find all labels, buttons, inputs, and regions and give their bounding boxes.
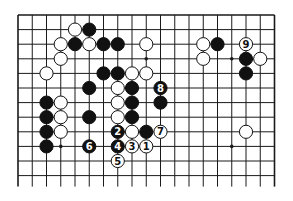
black-stone — [40, 125, 53, 138]
black-stone-icon — [239, 52, 252, 65]
white-stone-icon — [54, 38, 67, 51]
black-stone — [40, 140, 53, 153]
white-stone — [54, 38, 67, 51]
star-point-icon — [230, 57, 234, 61]
black-stone — [68, 38, 81, 51]
white-stone — [239, 125, 252, 138]
white-stone-icon — [197, 52, 210, 65]
white-stone-icon — [54, 96, 67, 109]
star-point-icon — [230, 145, 234, 149]
black-stone-icon — [40, 125, 53, 138]
black-stone — [125, 96, 138, 109]
black-stone — [83, 23, 96, 36]
black-stone-icon — [68, 38, 81, 51]
black-stone — [140, 125, 153, 138]
white-stone-icon — [83, 38, 96, 51]
black-stone-icon — [125, 111, 138, 124]
move-number-label: 9 — [243, 39, 250, 50]
black-stone-icon — [97, 38, 110, 51]
move-number-label: 3 — [129, 141, 136, 152]
white-stone — [54, 96, 67, 109]
white-stone-icon — [40, 67, 53, 80]
white-stone — [254, 52, 267, 65]
move-number-label: 6 — [86, 141, 93, 152]
star-point-icon — [144, 57, 148, 61]
black-stone-icon — [83, 111, 96, 124]
black-stone-move-4: 4 — [111, 140, 124, 153]
white-stone-icon — [125, 67, 138, 80]
move-number-label: 7 — [157, 126, 164, 137]
white-stone — [111, 81, 124, 94]
white-stone — [83, 38, 96, 51]
white-stone — [54, 52, 67, 65]
white-stone-move-1: 1 — [140, 140, 153, 153]
black-stone — [239, 67, 252, 80]
white-stone — [140, 38, 153, 51]
black-stone-move-6: 6 — [83, 140, 96, 153]
black-stone — [40, 96, 53, 109]
white-stone — [111, 111, 124, 124]
move-number-label: 1 — [143, 141, 150, 152]
white-stone — [40, 67, 53, 80]
black-stone-icon — [125, 81, 138, 94]
black-stone-icon — [40, 111, 53, 124]
white-stone-icon — [197, 38, 210, 51]
white-stone-icon — [111, 96, 124, 109]
move-number-label: 8 — [157, 83, 164, 94]
white-stone-move-9: 9 — [239, 38, 252, 51]
white-stone — [197, 52, 210, 65]
move-number-label: 4 — [114, 141, 121, 152]
black-stone — [154, 96, 167, 109]
white-stone-icon — [54, 125, 67, 138]
white-stone — [68, 23, 81, 36]
go-board-diagram: 982764315 — [0, 0, 293, 201]
white-stone — [111, 96, 124, 109]
white-stone — [54, 125, 67, 138]
black-stone-icon — [111, 67, 124, 80]
white-stone — [197, 38, 210, 51]
white-stone-move-3: 3 — [125, 140, 138, 153]
white-stone-icon — [54, 111, 67, 124]
black-stone — [211, 38, 224, 51]
black-stone-icon — [40, 140, 53, 153]
white-stone — [125, 125, 138, 138]
black-stone-icon — [239, 67, 252, 80]
black-stone-icon — [83, 81, 96, 94]
black-stone — [125, 81, 138, 94]
white-stone-move-5: 5 — [111, 154, 124, 167]
white-stone-icon — [68, 23, 81, 36]
white-stone-icon — [125, 125, 138, 138]
white-stone — [140, 67, 153, 80]
white-stone-icon — [140, 38, 153, 51]
black-stone-icon — [111, 38, 124, 51]
white-stone-move-7: 7 — [154, 125, 167, 138]
black-stone-icon — [211, 38, 224, 51]
black-stone — [83, 81, 96, 94]
white-stone-icon — [239, 125, 252, 138]
black-stone-move-2: 2 — [111, 125, 124, 138]
black-stone — [239, 52, 252, 65]
black-stone-icon — [83, 23, 96, 36]
move-number-label: 2 — [114, 126, 121, 137]
black-stone — [111, 67, 124, 80]
white-stone-icon — [111, 81, 124, 94]
black-stone — [111, 38, 124, 51]
black-stone — [97, 67, 110, 80]
white-stone-icon — [140, 67, 153, 80]
star-point-icon — [59, 145, 63, 149]
white-stone-icon — [54, 52, 67, 65]
black-stone — [97, 38, 110, 51]
white-stone — [54, 111, 67, 124]
black-stone — [40, 111, 53, 124]
black-stone — [83, 111, 96, 124]
white-stone-icon — [254, 52, 267, 65]
black-stone-icon — [40, 96, 53, 109]
black-stone-icon — [154, 96, 167, 109]
black-stone-icon — [140, 125, 153, 138]
move-number-label: 5 — [114, 156, 121, 167]
black-stone — [125, 111, 138, 124]
black-stone-icon — [97, 67, 110, 80]
white-stone-icon — [111, 111, 124, 124]
black-stone-move-8: 8 — [154, 81, 167, 94]
black-stone-icon — [125, 96, 138, 109]
